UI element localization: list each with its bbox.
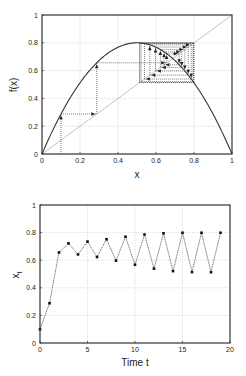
data-point-marker [77,253,80,256]
x-tick-label: 1 [230,157,234,164]
data-point-marker [96,256,99,259]
data-point-marker [124,235,127,238]
data-point-marker [67,242,70,245]
time-series-plot: 05101520 00.20.40.60.81 Time t xt [10,202,234,369]
data-point-marker [172,270,175,273]
arrow-head [154,49,158,53]
arrow-head [159,51,163,55]
top-x-axis-label: x [135,169,140,180]
y-label-sub: t [16,271,23,273]
y-tick-label: 0.6 [26,257,36,264]
identity-line [42,15,232,154]
data-point-marker [162,232,165,235]
y-tick-label: 0.2 [28,123,38,130]
data-point-marker [210,271,213,274]
arrow-head [95,64,99,68]
y-tick-label: 0.4 [26,284,36,291]
y-tick-label: 0.4 [28,95,38,102]
x-tick-label: 10 [131,346,139,353]
x-tick-label: 5 [86,346,90,353]
data-point-marker [86,240,89,243]
x-tick-label: 0.6 [151,157,161,164]
bottom-x-axis-label: Time t [121,357,149,368]
data-point-marker [153,267,156,270]
y-tick-label: 1 [34,12,38,19]
data-point-marker [143,233,146,236]
y-tick-label: 0.6 [28,67,38,74]
top-y-axis-label: f(x) [8,78,19,92]
x-tick-label: 0.8 [189,157,199,164]
y-tick-label: 0.2 [26,312,36,319]
data-point-marker [58,251,61,254]
data-point-marker [200,231,203,234]
top-x-tick-labels: 00.20.40.60.81 [40,157,234,164]
bottom-y-tick-labels: 00.20.40.60.81 [26,202,36,347]
y-tick-label: 0 [34,151,38,158]
x-tick-label: 0 [40,157,44,164]
y-tick-label: 0.8 [26,229,36,236]
data-point-marker [105,238,108,241]
bottom-y-axis-label: xt [10,271,23,278]
data-point-marker [219,231,222,234]
svg-text:xt: xt [10,271,23,278]
data-point-marker [48,302,51,305]
y-tick-label: 0.8 [28,39,38,46]
x-tick-label: 0.4 [113,157,123,164]
data-point-marker [134,263,137,266]
bottom-x-tick-labels: 05101520 [38,346,234,353]
data-point-marker [181,231,184,234]
series-line [40,233,221,329]
figure: 00.20.40.60.81 00.20.40.60.81 x f(x) 051… [0,0,246,376]
arrow-head [148,46,152,50]
y-tick-label: 1 [32,202,36,209]
data-point-marker [115,259,118,262]
x-tick-label: 15 [179,346,187,353]
x-tick-label: 0 [38,346,42,353]
data-point-marker [191,271,194,274]
x-tick-label: 0.2 [75,157,85,164]
cobweb-plot: 00.20.40.60.81 00.20.40.60.81 x f(x) [8,12,234,181]
top-y-tick-labels: 00.20.40.60.81 [28,12,38,158]
x-tick-label: 20 [226,346,234,353]
arrow-head [162,53,166,57]
y-tick-label: 0 [32,340,36,347]
bottom-grid [40,205,230,343]
